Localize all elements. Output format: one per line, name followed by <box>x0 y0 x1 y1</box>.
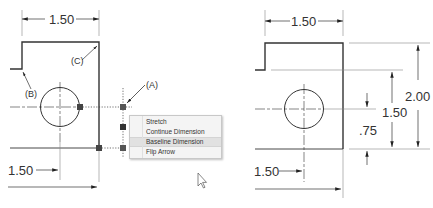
right-bottom-dimension: 1.50 <box>254 164 279 179</box>
menu-item-baseline-dimension[interactable]: Baseline Dimension <box>130 137 221 147</box>
menu-item-continue-dimension[interactable]: Continue Dimension <box>130 127 221 137</box>
left-bottom-dimension[interactable]: 1.50 <box>8 163 33 178</box>
grip-dimension-a[interactable] <box>120 104 126 110</box>
right-drawing <box>255 10 430 198</box>
menu-item-stretch[interactable]: Stretch <box>130 117 221 127</box>
grip-dimension-text[interactable] <box>120 124 126 130</box>
dimension-hole-center: .75 <box>359 123 377 138</box>
callout-b: (B) <box>25 89 37 99</box>
drawing-canvas: 1.50 1.50 (A) (B) (C) 1. <box>0 0 433 208</box>
grip-context-menu: Stretch Continue Dimension Baseline Dime… <box>129 115 222 159</box>
right-top-dimension: 1.50 <box>291 14 316 29</box>
grip-dimension-b[interactable] <box>120 145 126 151</box>
dimension-overall-height: 2.00 <box>405 89 430 104</box>
grip-circle-quadrant[interactable] <box>77 104 83 110</box>
menu-gutter <box>142 116 143 158</box>
callout-c: (C) <box>71 56 84 66</box>
dimension-middle-height: 1.50 <box>382 105 407 120</box>
callout-a: (A) <box>146 80 158 90</box>
left-top-dimension[interactable]: 1.50 <box>49 12 74 27</box>
menu-item-flip-arrow[interactable]: Flip Arrow <box>130 147 221 157</box>
grip-corner[interactable] <box>96 145 102 151</box>
